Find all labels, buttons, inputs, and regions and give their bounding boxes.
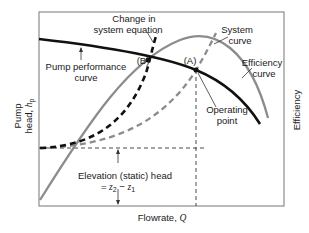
arrow-down-icon [116,200,120,205]
pump-label-2: curve [74,72,97,83]
svg-text:head, hp: head, hp [23,98,36,133]
x-axis-label: Flowrate, Q [138,212,187,223]
elevation-label: Elevation (static) head [78,170,172,181]
svg-text:Efficiency: Efficiency [291,90,302,131]
pump-system-diagram: Change in system equation Pump performan… [0,0,309,233]
svg-text:Pump: Pump [12,104,23,129]
point-b-label: (B) [137,55,150,66]
efficiency-label-1: Efficiency [242,57,283,68]
change-label-2: system equation [93,24,162,35]
elevation-equation: = z2 − z1 [101,181,135,193]
operating-label-1: Operating [206,104,248,115]
pump-label-1: Pump performance [46,61,127,72]
system-label-1: System [221,24,253,35]
operating-label-2: point [217,115,238,126]
y-axis-right-label: Efficiency [291,90,302,131]
point-a-marker [194,68,199,73]
y-axis-left-label: Pump head, hp [12,98,36,133]
system-curve [40,33,216,148]
arrow-up-icon [116,149,120,154]
efficiency-label-2: curve [252,68,275,79]
change-label-1: Change in [112,13,155,24]
system-label-2: curve [228,35,251,46]
changed-system-curve [40,33,157,148]
point-a-label: (A) [184,55,197,66]
arrow-up-icon [79,47,83,52]
